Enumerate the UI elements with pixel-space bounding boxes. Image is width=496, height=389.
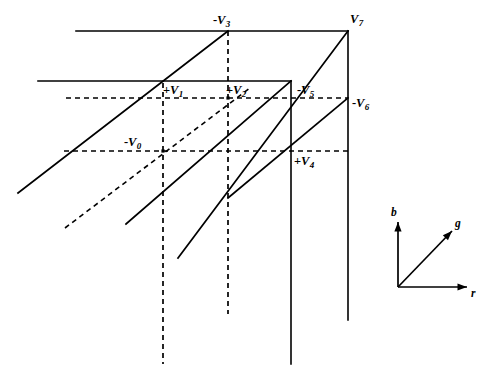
vertex-subscript-v6: 6 [364,102,369,112]
axis-r-label: r [471,288,475,300]
axis-b-arrowhead [394,222,401,232]
solid-vertical-edges [291,31,348,364]
vertex-sign-v4: + [294,154,301,168]
diagonal-through-v1-v3 [18,31,228,193]
vertex-subscript-v4: 4 [309,160,314,170]
axis-g-label: g [455,218,461,230]
hidden-diagonal-v0-v2 [65,88,250,228]
solid-diagonal-edges [18,31,348,258]
vertex-subscript-v2: 2 [241,89,246,99]
vertex-subscript-v5: 5 [309,89,314,99]
vertex-label-v3: -V3 [213,14,230,29]
axes-legend-lines [394,222,467,291]
vertex-label-v5: -V5 [297,84,314,99]
diagonal-through-v4-v6 [228,98,348,198]
vertex-subscript-v1: 1 [178,89,183,99]
axis-b-label: b [391,207,397,219]
axis-r-arrowhead [458,283,468,290]
diagonal-through-v0-v2 [126,81,291,224]
cube-diagram-canvas [0,0,496,389]
axis-g-line [398,231,452,287]
vertex-subscript-v7: 7 [358,18,363,28]
vertex-subscript-v0: 0 [136,141,141,151]
vertex-label-v6: -V6 [352,97,369,112]
vertex-sign-v2: + [226,83,233,97]
vertex-label-v0: -V0 [124,136,141,151]
vertex-label-v7: V7 [350,13,363,28]
vertex-label-v4: +V4 [294,155,314,170]
figure-root: -V0+V1+V2-V3+V4-V5-V6V7 bgr [0,0,496,389]
vertex-label-v1: +V1 [163,84,183,99]
vertex-label-v2: +V2 [226,84,246,99]
vertex-marker-v0 [161,149,164,152]
vertex-subscript-v3: 3 [225,19,230,29]
solid-horizontal-edges [38,31,348,81]
diagonal-through-v4-v7 [178,31,348,258]
dashed-diagonal-edges [65,88,250,228]
vertex-sign-v1: + [163,83,170,97]
